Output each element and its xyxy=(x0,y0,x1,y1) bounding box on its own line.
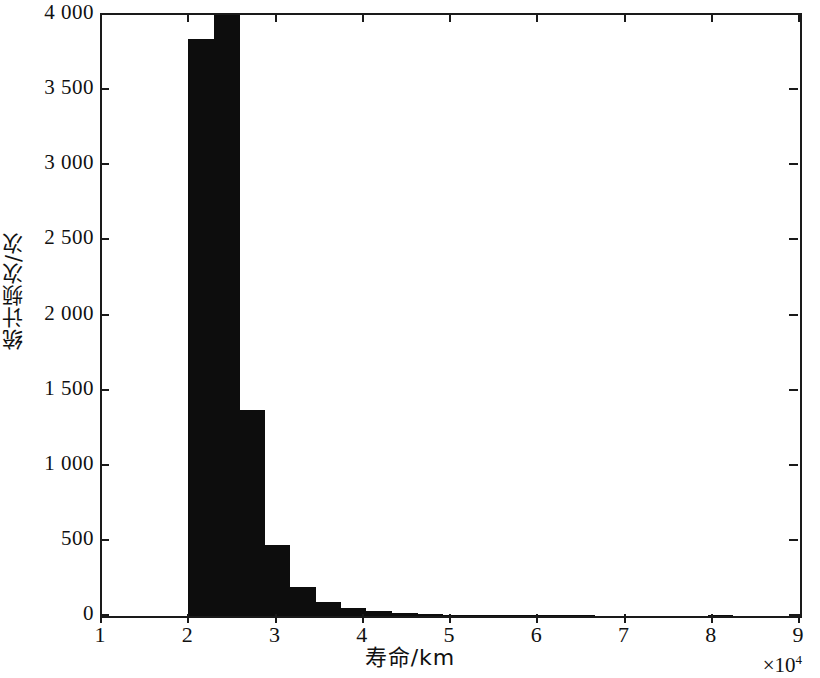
histogram-bar xyxy=(188,39,213,616)
histogram-bar xyxy=(418,614,443,616)
bar-series xyxy=(102,15,800,616)
y-tick-mark xyxy=(100,389,109,391)
y-tick-label: 500 xyxy=(0,528,94,549)
y-tick-mark xyxy=(100,88,109,90)
histogram-bar xyxy=(468,615,493,616)
histogram-bar xyxy=(392,613,418,616)
x-tick-mark-top xyxy=(275,13,277,22)
histogram-bar xyxy=(290,587,315,616)
y-tick-mark-right xyxy=(789,163,798,165)
y-tick-label: 2 000 xyxy=(0,303,94,324)
y-tick-label: 1 500 xyxy=(0,378,94,399)
histogram-bar xyxy=(544,615,569,616)
x-tick-mark-top xyxy=(711,13,713,22)
histogram-bar xyxy=(316,602,341,616)
y-tick-label: 0 xyxy=(0,603,94,624)
y-tick-mark xyxy=(100,238,109,240)
y-tick-mark-right xyxy=(789,13,798,15)
x-multiplier-base: ×10 xyxy=(763,653,796,677)
x-multiplier-exponent: 4 xyxy=(796,652,803,667)
histogram-bar xyxy=(214,13,240,616)
y-tick-label: 2 500 xyxy=(0,227,94,248)
histogram-bar xyxy=(519,615,544,616)
y-tick-mark-right xyxy=(789,238,798,240)
y-tick-mark xyxy=(100,539,109,541)
y-tick-label: 3 500 xyxy=(0,77,94,98)
x-tick-mark-top xyxy=(624,13,626,22)
y-tick-mark-right xyxy=(789,464,798,466)
y-tick-mark xyxy=(100,314,109,316)
y-tick-label: 3 000 xyxy=(0,152,94,173)
histogram-figure: 统计频次/次 05001 0001 5002 0002 5003 0003 50… xyxy=(0,0,820,678)
y-tick-mark xyxy=(100,464,109,466)
y-axis-title: 统计频次/次 xyxy=(2,232,36,350)
y-tick-mark-right xyxy=(789,314,798,316)
x-axis-title: 寿命/km xyxy=(0,645,820,671)
y-tick-mark-right xyxy=(789,539,798,541)
x-tick-mark-top xyxy=(798,13,800,22)
plot-area xyxy=(100,13,802,618)
histogram-bar xyxy=(265,545,290,616)
y-tick-label: 4 000 xyxy=(0,2,94,23)
x-tick-mark-top xyxy=(187,13,189,22)
x-axis-multiplier: ×104 xyxy=(763,648,802,677)
histogram-bar xyxy=(570,615,595,616)
y-tick-mark xyxy=(100,163,109,165)
x-tick-mark-top xyxy=(362,13,364,22)
y-tick-label: 1 000 xyxy=(0,453,94,474)
y-tick-mark-right xyxy=(789,389,798,391)
histogram-bar xyxy=(366,611,391,616)
x-tick-mark-top xyxy=(100,13,102,22)
x-tick-mark-top xyxy=(449,13,451,22)
y-tick-mark-right xyxy=(789,614,798,616)
histogram-bar xyxy=(240,410,265,616)
y-tick-mark-right xyxy=(789,88,798,90)
histogram-bar xyxy=(443,615,468,617)
x-tick-mark-top xyxy=(536,13,538,22)
histogram-bar xyxy=(494,615,519,616)
